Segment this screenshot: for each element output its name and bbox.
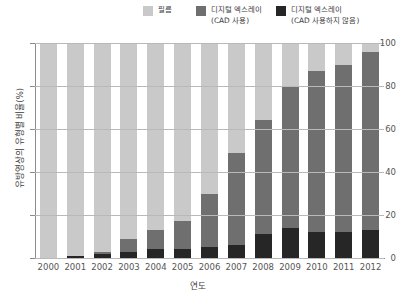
bar-segment <box>174 221 191 249</box>
plot-area <box>35 43 384 258</box>
bar-segment <box>94 43 111 252</box>
bar-segment <box>120 43 137 239</box>
y-axis-tick-mark <box>30 258 35 259</box>
bar-segment <box>174 249 191 258</box>
legend-swatch-film <box>143 6 153 16</box>
bar-segment <box>228 43 245 153</box>
bar-column <box>201 43 218 258</box>
legend-label-digital-no-cad: 디지털 엑스레이 (CAD 사용) <box>211 5 262 26</box>
bar-segment <box>308 232 325 258</box>
bar-segment <box>282 228 299 258</box>
gridline <box>35 43 384 44</box>
gridline <box>35 86 384 87</box>
bar-column <box>335 43 352 258</box>
bar-segment <box>147 43 164 230</box>
bar-segment <box>335 43 352 65</box>
bar-column <box>255 43 272 258</box>
bar-segment <box>308 43 325 71</box>
y-axis-tick-mark <box>30 215 35 216</box>
legend-label-digital-cad: 디지털 엑스레이 (CAD 사용하지 않음) <box>291 5 359 26</box>
bar-segment <box>255 234 272 258</box>
y-axis-tick-label: 20 <box>368 210 396 220</box>
bar-column <box>40 43 57 258</box>
x-axis-title: 연도 <box>0 279 396 291</box>
chart-legend: 필름 디지털 엑스레이 (CAD 사용) 디지털 엑스레이 (CAD 사용하지 … <box>0 2 396 36</box>
bar-column <box>120 43 137 258</box>
gridline <box>35 258 384 259</box>
gridline <box>35 129 384 130</box>
bar-segment <box>201 247 218 258</box>
bar-segment <box>120 239 137 252</box>
bar-segment <box>228 153 245 245</box>
bar-column <box>94 43 111 258</box>
bar-segment <box>282 86 299 228</box>
gridline <box>35 172 384 173</box>
legend-item-film: 필름 <box>143 5 172 16</box>
bar-column <box>282 43 299 258</box>
bar-column <box>362 43 379 258</box>
bar-segment <box>255 43 272 120</box>
y-axis-tick-label: 60 <box>368 124 396 134</box>
plot-wrapper: 020406080100 200020012002200320042005200… <box>0 36 396 298</box>
bar-column <box>67 43 84 258</box>
y-axis-tick-label: 40 <box>368 167 396 177</box>
y-axis-tick-mark <box>30 43 35 44</box>
bar-segment <box>335 65 352 233</box>
bar-column <box>228 43 245 258</box>
bar-segment <box>282 43 299 86</box>
bar-segment <box>308 71 325 232</box>
bar-column <box>147 43 164 258</box>
y-axis-tick-mark <box>30 172 35 173</box>
bar-segment <box>147 230 164 249</box>
bar-column <box>308 43 325 258</box>
legend-swatch-digital-cad <box>276 6 286 16</box>
bar-column <box>174 43 191 258</box>
bar-segment <box>201 43 218 194</box>
y-axis-tick-label: 80 <box>368 81 396 91</box>
bar-segment <box>40 43 57 258</box>
y-axis-title: 유방영상의 유형별 비율(%) <box>13 63 25 213</box>
y-axis-tick-mark <box>30 129 35 130</box>
legend-label-film: 필름 <box>158 5 172 16</box>
bar-segment <box>228 245 245 258</box>
bar-segment <box>94 252 111 254</box>
bar-segment <box>201 194 218 248</box>
legend-item-digital-no-cad: 디지털 엑스레이 (CAD 사용) <box>196 5 262 26</box>
legend-swatch-digital-no-cad <box>196 6 206 16</box>
bar-segment <box>67 43 84 256</box>
bars-layer <box>35 43 384 258</box>
y-axis-tick-label: 100 <box>368 38 396 48</box>
bar-segment <box>174 43 191 221</box>
bar-segment <box>335 232 352 258</box>
y-axis-tick-mark <box>30 86 35 87</box>
stacked-bar-chart: 필름 디지털 엑스레이 (CAD 사용) 디지털 엑스레이 (CAD 사용하지 … <box>0 0 396 298</box>
x-axis-tick-label: 2012 <box>354 262 388 272</box>
bar-segment <box>147 249 164 258</box>
legend-item-digital-cad: 디지털 엑스레이 (CAD 사용하지 않음) <box>276 5 359 26</box>
gridline <box>35 215 384 216</box>
bar-segment <box>255 120 272 234</box>
bar-segment <box>362 52 379 230</box>
